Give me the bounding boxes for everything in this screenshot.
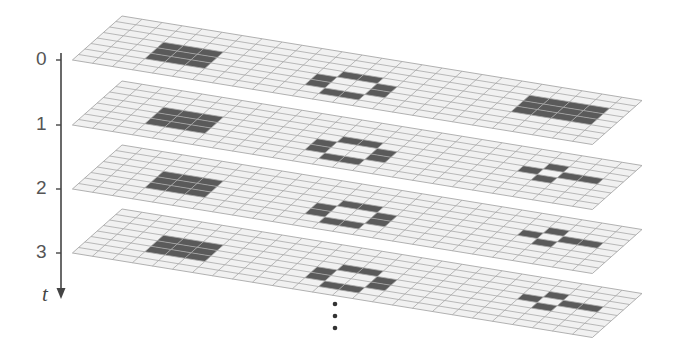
ellipsis-dot-2 xyxy=(333,314,338,319)
tick-label-2: 2 xyxy=(36,177,47,199)
tick-label-3: 3 xyxy=(36,241,47,263)
tick-label-1: 1 xyxy=(36,113,47,135)
tick-label-0: 0 xyxy=(36,48,47,70)
cellular-automaton-time-evolution-diagram: 0 1 2 3 t xyxy=(0,0,677,352)
time-axis xyxy=(0,0,677,352)
time-axis-label: t xyxy=(42,282,48,307)
ellipsis-dot-1 xyxy=(333,302,338,307)
time-axis-arrowhead-icon xyxy=(57,288,66,299)
ellipsis-dot-3 xyxy=(333,326,338,331)
